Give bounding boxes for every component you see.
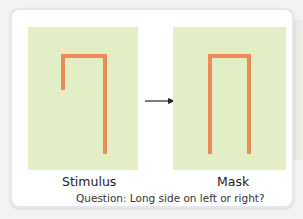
question-text: Question: Long side on left or right?: [76, 192, 265, 204]
figure-card: Stimulus Mask Question: Long side on lef…: [10, 8, 294, 208]
stimulus-long-right-leg: [103, 54, 107, 154]
mask-top-bar: [208, 54, 251, 58]
mask-right-leg: [247, 54, 251, 154]
mask-left-leg: [208, 54, 212, 154]
mask-label: Mask: [217, 174, 249, 189]
stimulus-panel: [28, 27, 138, 170]
stimulus-label: Stimulus: [62, 174, 116, 189]
right-arrow-icon: [144, 96, 176, 106]
mask-panel: [173, 27, 286, 170]
stimulus-short-left-leg: [61, 54, 65, 90]
stimulus-top-bar: [61, 54, 107, 58]
